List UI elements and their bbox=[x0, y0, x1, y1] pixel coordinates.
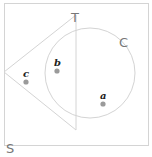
point-c bbox=[23, 79, 28, 84]
set-t-triangle bbox=[4, 15, 76, 130]
label-c: C bbox=[119, 35, 128, 50]
point-a bbox=[100, 101, 105, 106]
point-a-label: a bbox=[100, 90, 106, 101]
venn-diagram: S T C a b c bbox=[0, 0, 152, 157]
label-t: T bbox=[70, 10, 79, 25]
label-s: S bbox=[6, 141, 14, 156]
point-b-label: b bbox=[54, 57, 61, 68]
point-b bbox=[54, 68, 59, 73]
point-c-label: c bbox=[23, 68, 29, 79]
